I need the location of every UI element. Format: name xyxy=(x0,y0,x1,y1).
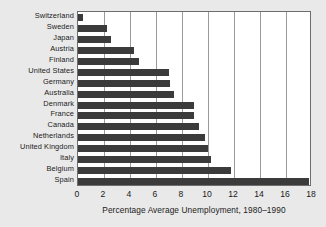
bar-row xyxy=(78,56,311,67)
bar xyxy=(78,134,205,141)
bar xyxy=(78,14,83,21)
bar xyxy=(78,91,174,98)
x-tick-label: 0 xyxy=(75,188,80,200)
category-label: Belgium xyxy=(0,164,74,175)
category-label: Australia xyxy=(0,88,74,99)
bar xyxy=(78,123,199,130)
category-label: France xyxy=(0,109,74,120)
bar-row xyxy=(78,143,311,154)
bar xyxy=(78,145,208,152)
x-tick-label: 6 xyxy=(153,188,158,200)
category-label: Sweden xyxy=(0,22,74,33)
bar-row xyxy=(78,154,311,165)
bar xyxy=(78,36,111,43)
bar xyxy=(78,102,194,109)
category-label: Netherlands xyxy=(0,131,74,142)
bar-row xyxy=(78,34,311,45)
category-label: Switzerland xyxy=(0,11,74,22)
bar-row xyxy=(78,132,311,143)
bar xyxy=(78,167,231,174)
bar-row xyxy=(78,45,311,56)
value-axis-tick-labels: 024681012141618 xyxy=(0,188,326,202)
x-tick-label: 16 xyxy=(280,188,290,200)
x-axis-title: Percentage Average Unemployment, 1980–19… xyxy=(77,205,311,215)
x-tick-label: 12 xyxy=(228,188,238,200)
bar-row xyxy=(78,78,311,89)
category-label: Japan xyxy=(0,33,74,44)
chart-figure: SwitzerlandSwedenJapanAustriaFinlandUnit… xyxy=(0,0,326,227)
bar-row xyxy=(78,23,311,34)
category-label: Germany xyxy=(0,77,74,88)
x-tick-label: 10 xyxy=(202,188,212,200)
category-label: Austria xyxy=(0,44,74,55)
x-tick-label: 14 xyxy=(254,188,264,200)
x-tick-label: 4 xyxy=(127,188,132,200)
bar-row xyxy=(78,100,311,111)
x-tick-label: 2 xyxy=(101,188,106,200)
bar xyxy=(78,47,134,54)
bar-row xyxy=(78,89,311,100)
bar xyxy=(78,156,211,163)
bar-row xyxy=(78,176,311,186)
category-label: Finland xyxy=(0,55,74,66)
bar xyxy=(78,80,170,87)
category-label: United States xyxy=(0,66,74,77)
category-label: Canada xyxy=(0,120,74,131)
x-tick-label: 8 xyxy=(179,188,184,200)
category-label: United Kingdom xyxy=(0,142,74,153)
bar xyxy=(78,58,139,65)
bar xyxy=(78,69,169,76)
category-label: Italy xyxy=(0,153,74,164)
bar-row xyxy=(78,12,311,23)
plot-area xyxy=(77,11,311,186)
bar xyxy=(78,178,309,185)
category-label: Denmark xyxy=(0,99,74,110)
bar xyxy=(78,112,194,119)
bar-row xyxy=(78,165,311,176)
bar xyxy=(78,25,107,32)
category-label: Spain xyxy=(0,175,74,186)
bar-row xyxy=(78,110,311,121)
x-tick-label: 18 xyxy=(306,188,316,200)
bar-row xyxy=(78,67,311,78)
bar-row xyxy=(78,121,311,132)
category-axis-labels: SwitzerlandSwedenJapanAustriaFinlandUnit… xyxy=(0,11,74,186)
